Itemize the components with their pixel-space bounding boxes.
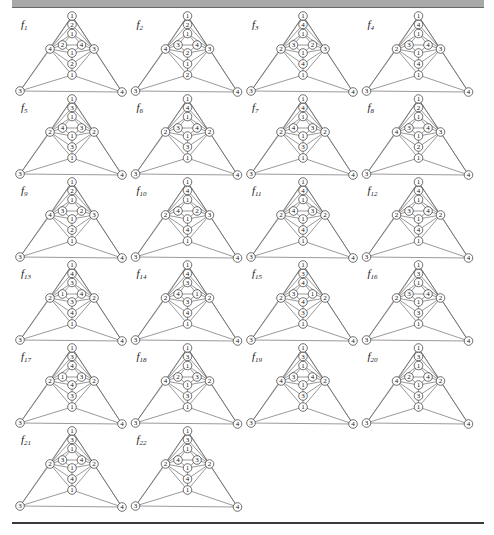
node-color-label: 1 bbox=[70, 30, 74, 38]
node-color-label: 2 bbox=[48, 460, 52, 468]
node-color-label: 2 bbox=[186, 71, 190, 79]
node-color-label: 2 bbox=[92, 460, 96, 468]
node-lower: 3 bbox=[299, 309, 308, 318]
node-color-label: 1 bbox=[186, 403, 190, 411]
node-color-label: 3 bbox=[301, 309, 305, 317]
edge bbox=[72, 407, 122, 424]
node-left: 2 bbox=[46, 377, 55, 386]
node-color-label: 3 bbox=[365, 419, 369, 427]
edge bbox=[419, 158, 469, 175]
node-color-label: 2 bbox=[439, 377, 443, 385]
node-inner_left: 4 bbox=[289, 124, 298, 133]
node-color-label: 3 bbox=[70, 353, 74, 361]
edge bbox=[367, 215, 397, 257]
node-center: 1 bbox=[183, 381, 192, 390]
node-bottom_left: 3 bbox=[362, 170, 371, 179]
node-color-label: 1 bbox=[311, 290, 315, 298]
graph-f10: f10141422314134 bbox=[131, 178, 242, 263]
edge bbox=[136, 49, 166, 91]
node-color-label: 1 bbox=[186, 178, 190, 186]
node-bottom_left: 3 bbox=[16, 336, 25, 345]
node-bottom_right: 4 bbox=[464, 171, 473, 180]
node-color-label: 1 bbox=[417, 298, 421, 306]
edge bbox=[136, 340, 238, 341]
node-color-label: 4 bbox=[467, 88, 471, 96]
node-color-label: 2 bbox=[61, 41, 65, 49]
node-top: 1 bbox=[414, 261, 423, 270]
node-color-label: 2 bbox=[186, 49, 190, 57]
edge bbox=[367, 340, 469, 341]
node-color-label: 3 bbox=[61, 207, 65, 215]
node-bottom_center: 1 bbox=[299, 237, 308, 246]
node-color-label: 3 bbox=[186, 143, 190, 151]
node-color-label: 2 bbox=[395, 294, 399, 302]
graph-label: f12 bbox=[368, 184, 379, 198]
graph-f20: f20131244213134 bbox=[362, 344, 473, 429]
node-color-label: 1 bbox=[70, 196, 74, 204]
node-bottom_right: 4 bbox=[118, 254, 127, 263]
node-inner_left: 4 bbox=[289, 207, 298, 216]
edge bbox=[251, 158, 303, 174]
node-upper: 3 bbox=[183, 435, 192, 444]
node-color-label: 3 bbox=[70, 143, 74, 151]
node-color-label: 1 bbox=[417, 95, 421, 103]
node-color-label: 4 bbox=[395, 377, 399, 385]
node-inner_right: 4 bbox=[193, 124, 202, 133]
graph-label: f18 bbox=[137, 350, 148, 364]
graph-label: f21 bbox=[21, 433, 31, 447]
node-color-label: 3 bbox=[18, 419, 22, 427]
node-lower: 4 bbox=[414, 60, 423, 69]
node-color-label: 2 bbox=[208, 460, 212, 468]
node-color-label: 3 bbox=[186, 436, 190, 444]
edge bbox=[20, 324, 72, 340]
node-color-label: 4 bbox=[351, 88, 355, 96]
node-bottom_center: 1 bbox=[414, 320, 423, 329]
node-lower: 2 bbox=[68, 60, 77, 69]
node-color-label: 2 bbox=[323, 211, 327, 219]
edge bbox=[20, 423, 122, 424]
edge bbox=[136, 91, 238, 92]
node-mid_upper: 1 bbox=[414, 112, 423, 121]
edge bbox=[441, 215, 469, 258]
node-lower: 4 bbox=[183, 309, 192, 318]
node-color-label: 1 bbox=[417, 344, 421, 352]
edge bbox=[367, 423, 469, 424]
node-color-label: 3 bbox=[134, 502, 138, 510]
node-mid_upper: 1 bbox=[299, 112, 308, 121]
node-color-label: 4 bbox=[467, 254, 471, 262]
node-lower: 2 bbox=[68, 226, 77, 235]
node-color-label: 3 bbox=[70, 436, 74, 444]
edge bbox=[367, 257, 469, 258]
node-center: 1 bbox=[68, 215, 77, 224]
node-color-label: 3 bbox=[301, 143, 305, 151]
edge bbox=[20, 75, 72, 91]
edge bbox=[419, 407, 469, 424]
node-color-label: 1 bbox=[186, 132, 190, 140]
node-color-label: 4 bbox=[236, 337, 240, 345]
node-color-label: 1 bbox=[70, 237, 74, 245]
node-color-label: 3 bbox=[292, 290, 296, 298]
node-top: 1 bbox=[183, 12, 192, 21]
node-left: 4 bbox=[161, 45, 170, 54]
node-color-label: 4 bbox=[70, 362, 74, 370]
edge bbox=[20, 381, 50, 423]
node-bottom_center: 1 bbox=[414, 71, 423, 80]
edge bbox=[72, 490, 122, 507]
graph-f1: f1121244312134 bbox=[16, 12, 127, 97]
graph-label: f17 bbox=[21, 350, 32, 364]
node-inner_right: 3 bbox=[308, 207, 317, 216]
node-color-label: 1 bbox=[186, 60, 190, 68]
node-color-label: 2 bbox=[323, 294, 327, 302]
node-top: 1 bbox=[183, 178, 192, 187]
node-color-label: 3 bbox=[176, 124, 180, 132]
node-left: 4 bbox=[46, 211, 55, 220]
node-lower: 4 bbox=[68, 309, 77, 318]
node-color-label: 1 bbox=[186, 486, 190, 494]
node-color-label: 2 bbox=[417, 104, 421, 112]
node-color-label: 2 bbox=[279, 211, 283, 219]
node-color-label: 2 bbox=[208, 128, 212, 136]
node-upper: 3 bbox=[68, 352, 77, 361]
node-right: 2 bbox=[205, 294, 214, 303]
node-bottom_right: 4 bbox=[349, 254, 358, 263]
node-right: 3 bbox=[436, 128, 445, 137]
